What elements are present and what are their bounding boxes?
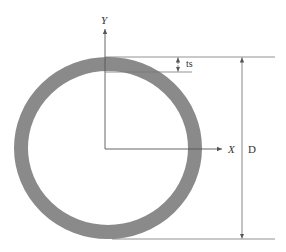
diameter-label: D bbox=[248, 143, 256, 155]
thickness-label: ts bbox=[186, 58, 193, 69]
x-axis-label: X bbox=[227, 143, 236, 155]
pipe-ring bbox=[21, 64, 195, 232]
diagram-canvas: Y X ts D bbox=[0, 0, 286, 252]
y-axis-label: Y bbox=[101, 14, 109, 26]
